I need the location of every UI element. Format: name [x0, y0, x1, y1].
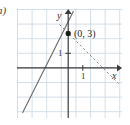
grid-horizontal-lines — [17, 10, 122, 112]
part-label: a) — [0, 4, 6, 16]
solid-line — [23, 11, 74, 113]
y-axis-label: y — [56, 10, 62, 21]
point-0-3-marker — [66, 31, 71, 36]
point-0-3-label: (0, 3) — [74, 28, 96, 40]
x-axis-label: x — [111, 70, 117, 81]
y-axis-tick-label: 1 — [58, 48, 63, 58]
x-axis-tick-label: 1 — [81, 71, 86, 81]
figure-screenshot: a) — [0, 0, 130, 125]
coordinate-plot: (0, 3) x y 1 1 — [17, 9, 122, 118]
